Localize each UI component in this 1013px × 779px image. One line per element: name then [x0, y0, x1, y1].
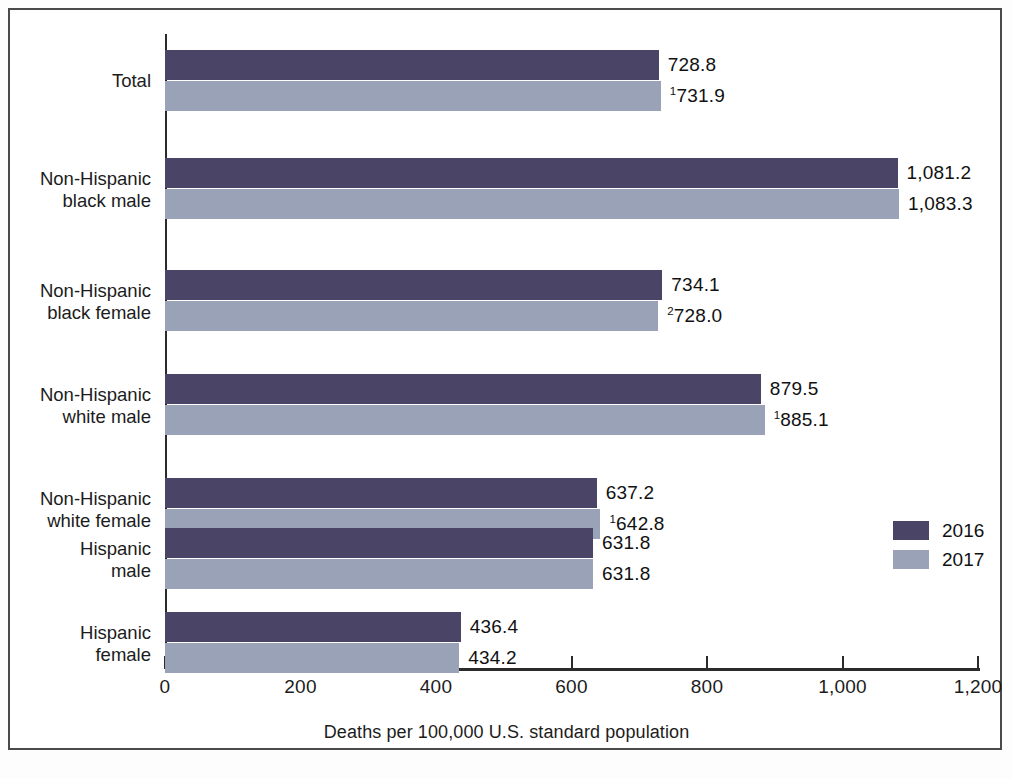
x-axis-title: Deaths per 100,000 U.S. standard populat…: [0, 722, 1013, 743]
category-label-line: black male: [40, 190, 151, 212]
legend-item-2017: 2017: [893, 545, 984, 574]
bar-2017: [165, 301, 658, 331]
category-label-line: Non-Hispanic: [40, 168, 151, 190]
chart-legend: 2016 2017: [893, 516, 984, 574]
category-label: Hispanicfemale: [80, 622, 151, 666]
chart-figure: 02004006008001,0001,200 Total728.81731.9…: [0, 0, 1013, 779]
bar-value-label: 728.8: [668, 50, 717, 80]
x-tick-label: 1,000: [818, 676, 867, 698]
legend-label-2017: 2017: [942, 549, 984, 571]
x-tick-label: 1,200: [954, 676, 1003, 698]
bar-2016: [165, 50, 659, 80]
bar-value-label: 631.8: [602, 559, 651, 589]
bar-2016: [165, 528, 593, 558]
category-label-line: Non-Hispanic: [40, 384, 151, 406]
bar-2016: [165, 374, 761, 404]
legend-item-2016: 2016: [893, 516, 984, 545]
x-tick-label: 600: [555, 676, 587, 698]
value-label-footnote-marker: 1: [609, 513, 616, 525]
x-tick-label: 800: [691, 676, 723, 698]
bar-2016: [165, 270, 662, 300]
bar-group: Hispanicmale631.8631.8: [165, 528, 978, 592]
bar-group: Non-Hispanicwhite male879.51885.1: [165, 374, 978, 438]
category-label: Non-Hispanicblack female: [40, 280, 151, 324]
bar-2017: [165, 559, 593, 589]
category-label-line: Hispanic: [80, 538, 151, 560]
category-label: Hispanicmale: [80, 538, 151, 582]
bar-value-label: 734.1: [671, 270, 720, 300]
bar-value-label: 1,083.3: [908, 189, 973, 219]
bar-value-label: 436.4: [470, 612, 519, 642]
category-label-line: male: [80, 560, 151, 582]
bar-2017: [165, 189, 899, 219]
bar-2016: [165, 478, 597, 508]
bar-value-label: 879.5: [770, 374, 819, 404]
category-label-line: white female: [40, 510, 151, 532]
bar-group: Total728.81731.9: [165, 50, 978, 114]
category-label-line: Non-Hispanic: [40, 488, 151, 510]
bar-group: Non-Hispanicblack female734.12728.0: [165, 270, 978, 334]
x-tick-label: 400: [420, 676, 452, 698]
bar-value-label: 1,081.2: [907, 158, 972, 188]
x-tick-label: 0: [160, 676, 171, 698]
bar-value-label: 637.2: [606, 478, 655, 508]
category-label-line: black female: [40, 302, 151, 324]
plot-area: Total728.81731.9Non-Hispanicblack male1,…: [165, 34, 978, 668]
category-label: Non-Hispanicwhite male: [40, 384, 151, 428]
category-label-line: Hispanic: [80, 622, 151, 644]
bar-group: Non-Hispanicblack male1,081.21,083.3: [165, 158, 978, 222]
category-label-line: female: [80, 644, 151, 666]
category-label: Total: [112, 70, 151, 92]
bar-2017: [165, 405, 765, 435]
category-label: Non-Hispanicwhite female: [40, 488, 151, 532]
value-label-footnote-marker: 2: [667, 305, 674, 317]
legend-swatch-2017-icon: [893, 550, 929, 569]
bar-group: Hispanicfemale436.4434.2: [165, 612, 978, 676]
bar-value-label: 1731.9: [670, 81, 725, 111]
bar-value-label: 631.8: [602, 528, 651, 558]
bar-2017: [165, 81, 661, 111]
category-label-line: Total: [112, 70, 151, 92]
bar-2016: [165, 158, 898, 188]
legend-swatch-2016-icon: [893, 521, 929, 540]
legend-label-2016: 2016: [942, 520, 984, 542]
x-tick-label: 200: [284, 676, 316, 698]
value-label-footnote-marker: 1: [774, 409, 781, 421]
category-label-line: Non-Hispanic: [40, 280, 151, 302]
category-label-line: white male: [40, 406, 151, 428]
bar-2017: [165, 643, 459, 673]
value-label-footnote-marker: 1: [670, 85, 677, 97]
category-label: Non-Hispanicblack male: [40, 168, 151, 212]
bar-value-label: 434.2: [468, 643, 517, 673]
bar-2016: [165, 612, 461, 642]
bar-value-label: 1885.1: [774, 405, 829, 435]
bar-value-label: 2728.0: [667, 301, 722, 331]
